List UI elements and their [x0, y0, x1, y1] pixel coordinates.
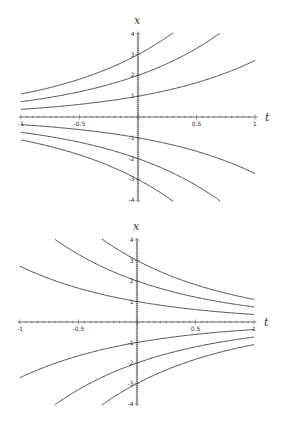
chart-bottom-svg: -1-0.50.51-4-3-2-11234tx [0, 212, 286, 424]
t-tick-label: -1 [18, 120, 24, 127]
t-tick-label: 1 [253, 120, 257, 127]
x-axis-label: x [133, 220, 140, 233]
x-axis-label: x [134, 14, 141, 27]
t-tick-label: -1 [17, 325, 23, 332]
x-tick-label: 1 [131, 92, 135, 99]
t-axis-label: t [264, 316, 269, 329]
x-tick-label: -4 [128, 400, 134, 407]
x-tick-label: 4 [131, 30, 135, 37]
solution-curve-C-3 [21, 33, 173, 94]
plot-bottom-exp-decay: -1-0.50.51-4-3-2-11234tx [0, 212, 286, 424]
t-tick-label: -0.5 [74, 120, 86, 127]
solution-curve-C-2 [21, 33, 220, 101]
t-tick-label: 0.5 [192, 120, 202, 127]
solution-curve-C--2 [21, 132, 220, 200]
chart-top-svg: -1-0.50.51-4-3-2-11234tx [0, 0, 286, 212]
t-tick-label: -0.5 [73, 325, 85, 332]
x-tick-label: 4 [130, 236, 134, 243]
t-tick-label: 1 [252, 325, 256, 332]
solution-curve-C--2 [55, 337, 254, 404]
solution-curve-C-2 [55, 239, 254, 306]
plot-top-exp-growth: -1-0.50.51-4-3-2-11234tx [0, 0, 286, 212]
solution-curve-C--3 [102, 345, 254, 405]
x-tick-label: 2 [130, 277, 134, 284]
t-axis-label: t [265, 111, 270, 124]
solution-curve-C--3 [21, 140, 173, 201]
t-tick-label: 0.5 [191, 325, 201, 332]
x-tick-label: -4 [129, 196, 135, 203]
solution-curve-C-3 [102, 239, 254, 299]
